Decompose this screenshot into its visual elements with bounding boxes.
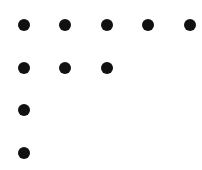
- dot-r2-c1: [18, 62, 30, 74]
- dot-pattern-figure: [0, 0, 202, 170]
- dot-r1-c1: [18, 19, 30, 31]
- dot-r2-c3: [101, 62, 113, 74]
- dot-r3-c1: [18, 104, 30, 116]
- dot-r1-c3: [101, 19, 113, 31]
- dot-r2-c2: [59, 62, 71, 74]
- dot-r4-c1: [18, 147, 30, 159]
- dot-r1-c5: [184, 19, 196, 31]
- dot-r1-c4: [142, 19, 154, 31]
- dot-r1-c2: [59, 19, 71, 31]
